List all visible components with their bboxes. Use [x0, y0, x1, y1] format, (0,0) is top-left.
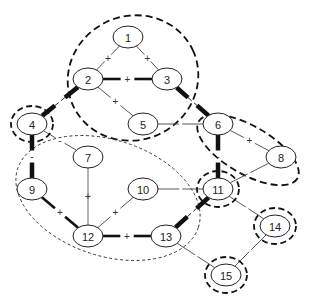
node-label: 3: [164, 74, 170, 86]
edge-13-11: [175, 198, 208, 228]
edge-6-8: +: [230, 130, 269, 150]
node-label: 4: [29, 119, 35, 131]
node-label: 9: [29, 184, 35, 196]
edge-sign: -: [58, 135, 61, 146]
node-14[interactable]: 14: [260, 215, 290, 237]
node-label: 10: [137, 184, 149, 196]
node-9[interactable]: 9: [17, 178, 47, 200]
node-2[interactable]: 2: [73, 68, 103, 90]
node-label: 5: [140, 119, 146, 131]
node-15[interactable]: 15: [211, 264, 241, 286]
node-4[interactable]: 4: [17, 113, 47, 135]
node-3[interactable]: 3: [152, 68, 182, 90]
node-label: 8: [278, 152, 284, 164]
edge-sign: -: [30, 151, 33, 162]
edge-9-12: +: [42, 197, 78, 227]
edge-sign: +: [247, 135, 253, 146]
edge-1-2: +: [97, 46, 120, 70]
edge-sign: +: [113, 96, 119, 107]
network-diagram: ++++--+-++++ 123456789101112131415: [0, 0, 317, 305]
edge-2-5: +: [98, 87, 133, 116]
edge-sign: +: [125, 74, 131, 85]
node-7[interactable]: 7: [73, 146, 103, 168]
node-12[interactable]: 12: [73, 225, 103, 247]
node-label: 1: [125, 32, 131, 44]
node-6[interactable]: 6: [203, 113, 233, 135]
node-5[interactable]: 5: [128, 113, 158, 135]
edge-8-11: [230, 163, 268, 182]
node-label: 15: [220, 270, 232, 282]
node-label: 7: [85, 152, 91, 164]
edges: ++++--+-++++: [30, 46, 268, 268]
edge-sign: +: [124, 231, 130, 242]
node-label: 13: [160, 231, 172, 243]
edge-12-13: +: [103, 231, 151, 242]
edge-10-12: +: [98, 197, 133, 227]
edge-13-15: [177, 243, 215, 267]
edge-1-3: +: [136, 46, 158, 70]
node-label: 14: [269, 221, 281, 233]
edge-3-6: [177, 87, 209, 115]
node-label: 6: [215, 119, 221, 131]
node-highlight-rings: [11, 106, 296, 293]
edge-sign: +: [113, 207, 119, 218]
edge-sign: +: [85, 191, 91, 202]
edge-7-12: +: [85, 168, 91, 225]
edge-2-3: +: [103, 74, 152, 85]
node-label: 11: [212, 184, 223, 196]
edge-sign: +: [145, 53, 151, 64]
node-label: 2: [85, 74, 91, 86]
node-label: 12: [82, 231, 94, 243]
edge-sign: +: [57, 207, 63, 218]
edge-sign: -: [216, 151, 219, 162]
node-1[interactable]: 1: [113, 26, 143, 48]
node-11[interactable]: 11: [203, 178, 233, 200]
node-8[interactable]: 8: [266, 146, 296, 168]
node-13[interactable]: 13: [151, 225, 181, 247]
edge-sign: +: [105, 53, 111, 64]
node-10[interactable]: 10: [128, 178, 158, 200]
